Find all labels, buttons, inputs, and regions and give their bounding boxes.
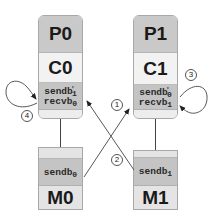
step-marker-2: 2 <box>111 154 123 166</box>
arrow-step-1 <box>84 109 129 177</box>
arrows-layer <box>0 0 216 224</box>
arrow-step-3 <box>180 86 207 113</box>
arrow-step-4 <box>6 81 37 107</box>
step-marker-1: 1 <box>111 99 123 111</box>
step-marker-3: 3 <box>185 69 197 81</box>
step-marker-4: 4 <box>21 110 33 122</box>
